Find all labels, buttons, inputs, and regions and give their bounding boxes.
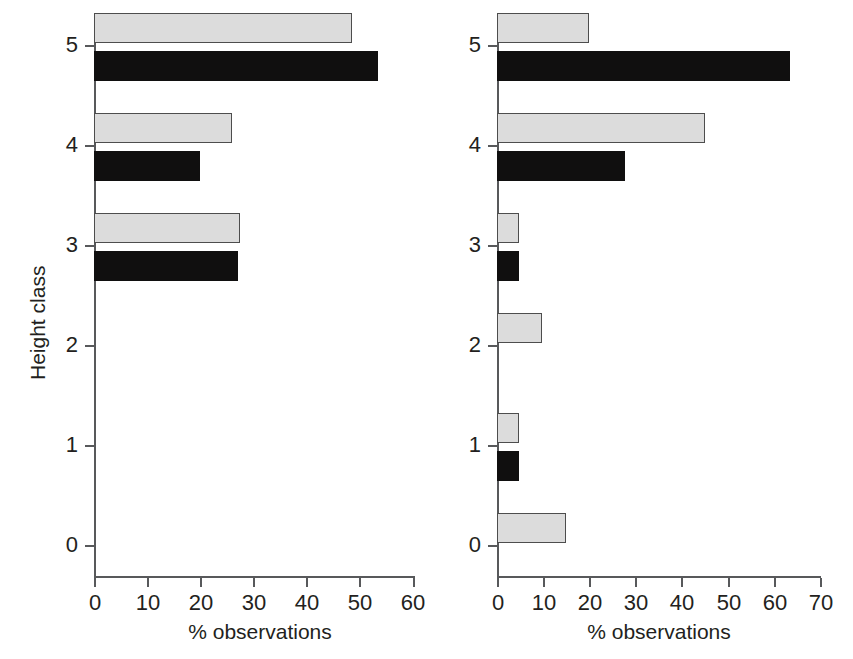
right-bar-class-4-light <box>497 113 705 143</box>
right-x-tick-label-0: 0 <box>478 592 518 614</box>
right-bar-class-5-dark <box>497 51 790 81</box>
left-y-tick-label-2: 2 <box>48 334 78 356</box>
right-bar-class-2-light <box>497 313 542 343</box>
right-y-tick-label-5: 5 <box>451 34 481 56</box>
right-y-tick-label-4: 4 <box>451 134 481 156</box>
left-bar-class-4-dark <box>94 151 200 181</box>
left-x-tick-label-0: 0 <box>75 592 115 614</box>
right-x-tick-label-10: 10 <box>524 592 564 614</box>
right-y-tick-label-2: 2 <box>451 334 481 356</box>
left-x-tick-50 <box>359 578 361 587</box>
right-x-tick-70 <box>820 578 822 587</box>
left-y-axis-line <box>94 22 96 578</box>
left-bar-class-3-light <box>94 213 240 243</box>
left-y-tick-4 <box>85 145 94 147</box>
left-bar-class-4-light <box>94 113 232 143</box>
left-x-tick-label-10: 10 <box>128 592 168 614</box>
right-x-axis-title: % observations <box>559 620 759 644</box>
left-x-tick-0 <box>94 578 96 587</box>
right-y-tick-5 <box>488 45 497 47</box>
right-y-tick-1 <box>488 445 497 447</box>
right-x-tick-label-40: 40 <box>662 592 702 614</box>
right-y-tick-2 <box>488 345 497 347</box>
right-x-tick-20 <box>589 578 591 587</box>
right-bar-class-1-light <box>497 413 519 443</box>
right-x-tick-60 <box>774 578 776 587</box>
left-x-tick-10 <box>147 578 149 587</box>
left-x-tick-label-50: 50 <box>340 592 380 614</box>
left-x-tick-label-60: 60 <box>393 592 433 614</box>
right-x-tick-0 <box>497 578 499 587</box>
left-y-tick-5 <box>85 45 94 47</box>
right-y-tick-label-1: 1 <box>451 434 481 456</box>
right-x-tick-label-70: 70 <box>801 592 841 614</box>
left-x-tick-label-40: 40 <box>287 592 327 614</box>
right-y-tick-label-3: 3 <box>451 234 481 256</box>
left-y-tick-label-0: 0 <box>48 534 78 556</box>
left-x-tick-20 <box>200 578 202 587</box>
right-x-tick-30 <box>635 578 637 587</box>
left-chart-panel: Height class 5 4 3 2 1 0 0 10 20 30 40 5… <box>0 0 440 659</box>
left-x-tick-label-20: 20 <box>181 592 221 614</box>
right-x-tick-40 <box>681 578 683 587</box>
left-y-tick-label-5: 5 <box>48 34 78 56</box>
left-x-tick-label-30: 30 <box>234 592 274 614</box>
right-x-tick-label-30: 30 <box>616 592 656 614</box>
left-bar-class-5-dark <box>94 51 378 81</box>
right-bar-class-5-light <box>497 13 589 43</box>
left-y-tick-0 <box>85 545 94 547</box>
left-x-tick-30 <box>253 578 255 587</box>
left-y-tick-2 <box>85 345 94 347</box>
right-y-tick-3 <box>488 245 497 247</box>
left-y-tick-label-1: 1 <box>48 434 78 456</box>
left-y-tick-label-4: 4 <box>48 134 78 156</box>
left-bar-class-3-dark <box>94 251 238 281</box>
right-x-tick-label-60: 60 <box>755 592 795 614</box>
right-y-tick-label-0: 0 <box>451 534 481 556</box>
right-x-tick-50 <box>728 578 730 587</box>
left-y-tick-3 <box>85 245 94 247</box>
left-x-tick-40 <box>306 578 308 587</box>
figure-two-panel-bar-charts: Height class 5 4 3 2 1 0 0 10 20 30 40 5… <box>0 0 853 659</box>
left-y-tick-label-3: 3 <box>48 234 78 256</box>
left-x-tick-60 <box>413 578 415 587</box>
right-x-tick-label-50: 50 <box>709 592 749 614</box>
right-y-tick-0 <box>488 545 497 547</box>
left-x-axis-title: % observations <box>160 620 360 644</box>
right-bar-class-1-dark <box>497 451 519 481</box>
right-x-tick-label-20: 20 <box>570 592 610 614</box>
right-x-tick-10 <box>543 578 545 587</box>
right-bar-class-3-light <box>497 213 519 243</box>
right-bar-class-4-dark <box>497 151 625 181</box>
left-y-tick-1 <box>85 445 94 447</box>
right-x-axis-line <box>497 576 821 578</box>
right-bar-class-0-light <box>497 513 566 543</box>
left-y-axis-title: Height class <box>26 266 50 380</box>
right-y-axis-line <box>497 22 499 578</box>
right-bar-class-3-dark <box>497 251 519 281</box>
right-chart-panel: 5 4 3 2 1 0 0 10 20 30 40 50 60 70 % obs… <box>440 0 853 659</box>
right-y-tick-4 <box>488 145 497 147</box>
left-bar-class-5-light <box>94 13 352 43</box>
